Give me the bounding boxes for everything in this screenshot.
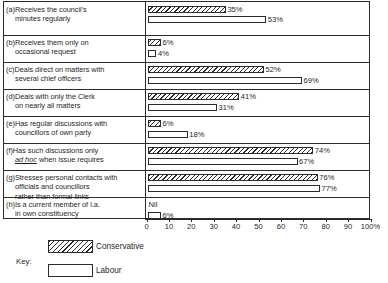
x-axis-tick-label: 50 <box>254 223 262 231</box>
row-label-line: (b)Receives them only on <box>6 38 143 47</box>
row-plot-e: 6%18% <box>146 117 369 143</box>
row-label-f: (f)Has such discussions onlyad hoc when … <box>4 144 146 170</box>
row-label-line: (a)Receives the council's <box>6 5 143 14</box>
bar-value-conservative: 6% <box>162 39 173 47</box>
chart-row-f: (f)Has such discussions onlyad hoc when … <box>4 144 369 171</box>
bar-labour <box>148 185 320 192</box>
bar-value-conservative: Nil <box>149 201 158 209</box>
x-axis-tick-label: 80 <box>321 223 329 231</box>
legend-caption: Key: <box>16 257 32 266</box>
row-label-line: (g)Stresses personal contacts with <box>6 173 143 182</box>
legend-swatch-conservative <box>48 240 93 253</box>
row-plot-f: 74%67% <box>146 144 369 170</box>
x-axis-tick-label: 0 <box>144 223 148 231</box>
row-label-line: (c)Deals direct on matters with <box>6 65 143 74</box>
row-label-line: (e)Has regular discussions with <box>6 119 143 128</box>
bar-conservative <box>148 93 240 100</box>
bar-conservative <box>148 6 226 13</box>
row-label-d: (d)Deals with only the Clerkon nearly al… <box>4 90 146 116</box>
row-label-line: officials and councillors <box>6 182 143 191</box>
bar-labour <box>148 77 303 84</box>
bar-value-labour: 18% <box>189 131 204 139</box>
x-axis-tick-label: 70 <box>299 223 307 231</box>
row-plot-a: 35%53% <box>146 2 369 35</box>
row-plot-d: 41%31% <box>146 90 369 116</box>
row-label-line: several chief officers <box>6 74 143 83</box>
chart-row-c: (c)Deals direct on matters withseveral c… <box>4 63 369 90</box>
row-plot-g: 76%77% <box>146 171 369 197</box>
bar-value-conservative: 76% <box>319 174 334 182</box>
chart-plot-box: (a)Receives the council'sminutes regular… <box>3 1 370 219</box>
x-axis-tick-label: 20 <box>187 223 195 231</box>
bar-value-labour: 77% <box>321 185 336 193</box>
legend-label-conservative: Conservative <box>96 242 144 251</box>
row-label-line: occasional request <box>6 47 143 56</box>
chart-page: (a)Receives the council'sminutes regular… <box>0 0 388 283</box>
row-label-h: (h)Is a current member of l.a.in own con… <box>4 198 146 219</box>
bar-conservative <box>148 66 264 73</box>
x-axis-tick-label: 40 <box>232 223 240 231</box>
chart-row-g: (g)Stresses personal contacts withoffici… <box>4 171 369 198</box>
row-label-line: (d)Deals with only the Clerk <box>6 92 143 101</box>
bar-conservative <box>148 147 314 154</box>
bar-value-labour: 69% <box>304 77 319 85</box>
chart-legend: Key: ConservativeLabour <box>0 238 200 283</box>
bar-value-labour: 4% <box>158 50 169 58</box>
bar-conservative <box>148 174 318 181</box>
row-label-a: (a)Receives the council'sminutes regular… <box>4 2 146 35</box>
bar-labour <box>148 212 161 219</box>
bar-value-labour: 67% <box>299 158 314 166</box>
bar-value-conservative: 6% <box>162 120 173 128</box>
bar-conservative <box>148 39 161 46</box>
row-plot-c: 52%69% <box>146 63 369 89</box>
chart-row-e: (e)Has regular discussions withcouncillo… <box>4 117 369 144</box>
chart-row-a: (a)Receives the council'sminutes regular… <box>4 2 369 36</box>
row-label-line: (f)Has such discussions only <box>6 146 143 155</box>
row-label-line: (h)Is a current member of l.a. <box>6 200 143 209</box>
bar-value-labour: 53% <box>268 16 283 24</box>
row-label-line: in own constituency <box>6 209 143 218</box>
bar-conservative <box>148 120 161 127</box>
bar-labour <box>148 158 298 165</box>
row-plot-h: Nil6% <box>146 198 369 219</box>
bar-labour <box>148 50 157 57</box>
chart-row-h: (h)Is a current member of l.a.in own con… <box>4 198 369 219</box>
legend-swatch-labour <box>48 264 93 277</box>
bar-labour <box>148 131 188 138</box>
x-axis-tick-label: 30 <box>209 223 217 231</box>
bar-labour <box>148 16 267 23</box>
bar-value-conservative: 74% <box>315 147 330 155</box>
legend-label-labour: Labour <box>96 266 122 275</box>
row-label-line: on nearly all matters <box>6 101 143 110</box>
row-label-line: minutes regularly <box>6 14 143 23</box>
row-label-line: councillors of own party <box>6 128 143 137</box>
bar-labour <box>148 104 217 111</box>
x-axis: 0102030405060708090100% <box>145 219 371 239</box>
x-axis-tick-label: 90 <box>344 223 352 231</box>
chart-row-d: (d)Deals with only the Clerkon nearly al… <box>4 90 369 117</box>
chart-row-b: (b)Receives them only onoccasional reque… <box>4 36 369 63</box>
bar-value-labour: 31% <box>218 104 233 112</box>
row-label-b: (b)Receives them only onoccasional reque… <box>4 36 146 62</box>
x-axis-tick-label: 60 <box>277 223 285 231</box>
bar-value-conservative: 35% <box>227 6 242 14</box>
row-label-line: ad hoc when issue requires <box>6 155 143 164</box>
bar-value-conservative: 52% <box>265 66 280 74</box>
bar-value-conservative: 41% <box>241 93 256 101</box>
x-axis-tick-label: 100% <box>361 223 380 231</box>
row-label-c: (c)Deals direct on matters withseveral c… <box>4 63 146 89</box>
row-label-e: (e)Has regular discussions withcouncillo… <box>4 117 146 143</box>
x-axis-tick-label: 10 <box>165 223 173 231</box>
row-label-g: (g)Stresses personal contacts withoffici… <box>4 171 146 197</box>
row-plot-b: 6%4% <box>146 36 369 62</box>
